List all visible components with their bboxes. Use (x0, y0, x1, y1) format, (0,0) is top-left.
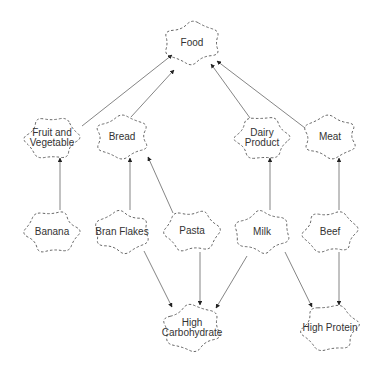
node-food-shape (166, 21, 218, 65)
node-milk-shape (235, 211, 289, 254)
node-fruitveg-shape (24, 118, 80, 157)
edge-dairy-to-food (211, 64, 250, 118)
edge-bread-to-food (131, 70, 174, 117)
node-beef-shape (302, 212, 358, 252)
edge-pasta-to-bread (148, 157, 173, 213)
node-branflakes-shape (96, 210, 149, 253)
food-hierarchy-diagram (0, 0, 383, 374)
node-bread-shape (97, 115, 147, 159)
edge-branflakes-to-highcarb (144, 251, 172, 307)
node-meat-shape (305, 115, 355, 159)
nodes-layer (24, 21, 359, 351)
node-highprot-shape (301, 305, 360, 350)
edge-milk-to-highcarb (216, 256, 247, 308)
edges-layer (60, 55, 339, 308)
node-banana-shape (24, 212, 80, 252)
node-pasta-shape (164, 211, 221, 251)
node-dairy-shape (234, 118, 290, 159)
edge-fruitveg-to-food (82, 55, 172, 126)
edge-milk-to-highprot (285, 252, 312, 307)
edge-meat-to-food (217, 61, 305, 128)
node-highcarb-shape (164, 304, 220, 351)
